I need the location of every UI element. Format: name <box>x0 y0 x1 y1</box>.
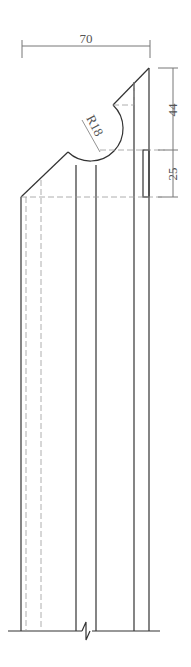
radius-label: R18 <box>83 112 106 138</box>
profile-outline <box>8 68 160 640</box>
dimension-width-label: 70 <box>80 31 93 46</box>
dimension-height-lower-label: 25 <box>165 168 180 181</box>
section-drawing: 70 44 25 R18 <box>0 0 191 667</box>
dimension-height-upper-label: 44 <box>165 103 180 117</box>
